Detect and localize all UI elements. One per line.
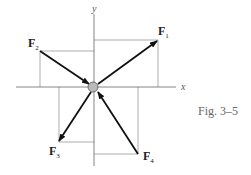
force-diagram: x y F1 F2 F3 F4 Fig. 3–5 bbox=[0, 0, 251, 175]
label-f3: F3 bbox=[49, 144, 60, 160]
component-lines bbox=[40, 40, 158, 154]
x-axis-label: x bbox=[180, 81, 186, 92]
force-arrow-f3 bbox=[59, 92, 91, 141]
label-f2: F2 bbox=[28, 36, 39, 52]
force-arrow-f1 bbox=[98, 41, 157, 84]
force-arrow-f4 bbox=[98, 92, 138, 154]
y-axis-label: y bbox=[91, 3, 97, 14]
force-arrow-f2 bbox=[40, 51, 89, 84]
label-f1: F1 bbox=[158, 24, 169, 40]
label-f4: F4 bbox=[143, 149, 154, 165]
particle bbox=[88, 82, 98, 92]
figure-3-5: x y F1 F2 F3 F4 Fig. 3–5 bbox=[0, 0, 251, 175]
figure-caption: Fig. 3–5 bbox=[198, 104, 238, 118]
